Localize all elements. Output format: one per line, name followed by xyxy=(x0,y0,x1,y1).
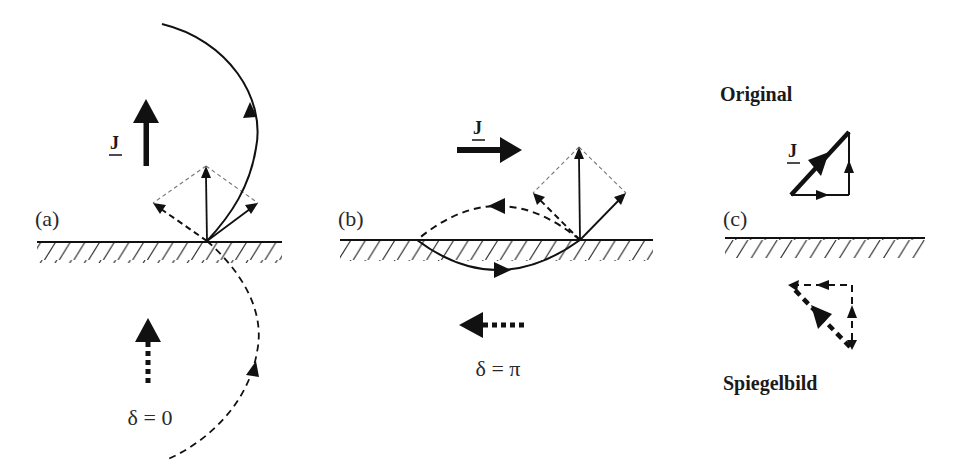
conductor-surface-a xyxy=(37,242,282,263)
panel-b: (b) J xyxy=(338,118,653,381)
panel-a: (a) J xyxy=(35,24,282,460)
original-title: Original xyxy=(720,83,793,106)
panel-a-label: (a) xyxy=(35,206,59,231)
image-trajectory-arc-a xyxy=(166,241,259,460)
mirror-title: Spiegelbild xyxy=(723,372,817,395)
image-current-arrow-up-icon xyxy=(135,318,161,386)
current-arrow-right-icon xyxy=(457,137,522,163)
mirror-current-diagram: (a) J xyxy=(0,0,954,476)
current-label-b: J xyxy=(473,118,482,138)
vector-decomposition-a xyxy=(153,166,258,241)
current-label-a: J xyxy=(110,133,119,153)
image-current-arrow-left-icon xyxy=(459,312,526,338)
image-trajectory-arc-b xyxy=(417,198,580,240)
panel-b-label: (b) xyxy=(338,206,364,231)
mirror-vector-triangle xyxy=(788,280,857,350)
phase-condition-b: δ = π xyxy=(476,356,521,381)
panel-c: Original J (c) Spiegelbild xyxy=(720,83,925,395)
phase-condition-a: δ = 0 xyxy=(128,405,173,430)
current-label-c: J xyxy=(788,141,797,161)
conductor-surface-b xyxy=(340,240,653,261)
conductor-surface-c xyxy=(725,238,925,258)
current-arrow-up-icon xyxy=(133,99,159,166)
trajectory-arc-a xyxy=(162,24,258,241)
panel-c-label: (c) xyxy=(723,206,747,231)
original-vector-triangle xyxy=(791,132,854,200)
vector-decomposition-b xyxy=(533,147,626,240)
